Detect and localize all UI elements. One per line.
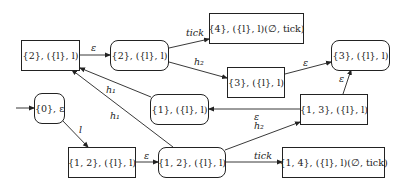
edge-label-n2b-n3a: h₂: [194, 56, 204, 67]
node-n2b: {2}, ({l}, l): [110, 40, 169, 71]
node-label: {1, 4}, ({l}, l)(∅, tick): [279, 157, 387, 168]
edge-label-n3a-n3b: ε: [303, 57, 308, 68]
edge-label-n12b-n2a: h₁: [110, 110, 120, 121]
node-n12b: {1, 2}, ({l}, l): [158, 147, 226, 178]
node-n3a: {3}, ({l}, l): [227, 67, 285, 98]
node-label: {3}, ({l}, l): [228, 77, 284, 88]
node-n12a: {1, 2}, ({l}, l): [68, 147, 136, 178]
edge-label-n0-n12a: l: [79, 124, 82, 135]
edge-label-n12a-n12b: ε: [144, 150, 149, 161]
node-n0: {0}, ε: [34, 93, 65, 124]
node-label: {2}, ({l}, l): [23, 50, 79, 61]
node-n1: {1}, ({l}, l): [150, 94, 209, 125]
node-n4: {4}, ({l}, l)(∅, tick): [209, 13, 304, 44]
node-label: {3}, ({l}, l): [333, 50, 389, 61]
edge-n2b-n4: [169, 39, 209, 48]
node-label: {0}, ε: [35, 103, 64, 114]
node-n2a: {2}, ({l}, l): [21, 40, 80, 71]
node-label: {4}, ({l}, l)(∅, tick): [208, 23, 304, 34]
edge-label-n1-n2a: h₁: [106, 84, 116, 95]
edge-label-n12b-n14: tick: [254, 150, 272, 161]
edge-label-n13-n3b: ε: [339, 73, 344, 84]
node-label: {1, 2}, ({l}, l): [68, 157, 136, 168]
edge-label-n2a-n2b: ε: [91, 42, 96, 53]
edge-label-n2b-n4: tick: [186, 27, 204, 38]
edge-n13-n3b: [343, 70, 351, 94]
node-label: {1, 3}, ({l}, l): [300, 104, 368, 115]
node-n13: {1, 3}, ({l}, l): [300, 94, 368, 125]
node-n3b: {3}, ({l}, l): [331, 40, 390, 71]
edge-n0-n12a: [62, 120, 88, 147]
node-n14: {1, 4}, ({l}, l)(∅, tick): [282, 147, 385, 178]
node-label: {2}, ({l}, l): [112, 50, 168, 61]
node-label: {1}, ({l}, l): [152, 104, 208, 115]
edge-label-n12b-n13: h₂: [254, 120, 264, 131]
node-label: {1, 2}, ({l}, l): [158, 157, 226, 168]
